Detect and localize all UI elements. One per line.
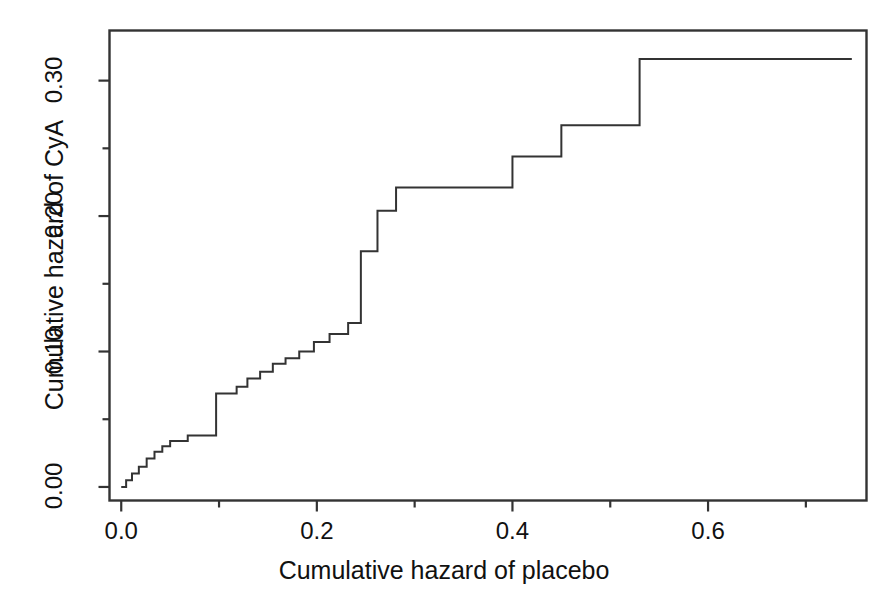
y-tick-label: 0.30 — [40, 40, 68, 120]
x-axis-title: Cumulative hazard of placebo — [0, 556, 888, 585]
plot-frame — [110, 31, 867, 501]
x-tick-label: 0.4 — [472, 517, 552, 545]
y-tick-label: 0.10 — [40, 311, 68, 391]
data-series-group — [121, 59, 852, 487]
x-tick-label: 0.6 — [668, 517, 748, 545]
step-line-cumulative-hazard — [121, 59, 852, 487]
y-tick-label: 0.20 — [40, 175, 68, 255]
x-tick-label: 0.2 — [277, 517, 357, 545]
x-tick-label: 0.0 — [81, 517, 161, 545]
y-tick-label: 0.00 — [40, 446, 68, 526]
chart-plot-area — [0, 0, 888, 603]
chart-figure: Cumulative hazard of placebo Cumulative … — [0, 0, 888, 603]
x-axis-ticks — [121, 501, 806, 512]
y-axis-ticks — [99, 81, 110, 487]
